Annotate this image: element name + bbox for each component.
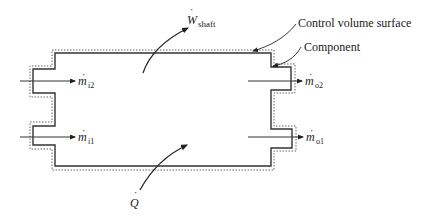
control-volume-leader: [253, 24, 296, 51]
mass-symbol: m: [78, 130, 87, 144]
mass-symbol: m: [306, 130, 315, 144]
outlet-2-label: · m o2: [305, 69, 323, 90]
outlet-1-label: · m o1: [306, 125, 324, 146]
component-leader: [273, 47, 301, 66]
inlet-2-label: · m i2: [78, 69, 94, 90]
mass-symbol: m: [78, 74, 87, 88]
work-subscript: shaft: [198, 19, 216, 29]
heat-label: · Q: [130, 187, 139, 210]
component-outline: [33, 53, 292, 166]
shaft-work-arrow: [143, 28, 188, 73]
inlet-1-label: · m i1: [78, 125, 94, 146]
work-symbol: W: [187, 13, 198, 27]
inlet-2-subscript: i2: [88, 81, 94, 90]
inlet-1-subscript: i1: [88, 137, 94, 146]
component-label: Component: [304, 40, 361, 54]
control-volume-surface-label: Control volume surface: [298, 16, 411, 30]
control-volume-diagram: Control volume surface Component · W sha…: [0, 0, 422, 217]
outlet-2-subscript: o2: [315, 81, 323, 90]
heat-arrow: [140, 145, 187, 190]
outlet-1-subscript: o1: [316, 137, 324, 146]
shaft-work-label: · W shaft: [187, 4, 216, 29]
control-volume-surface: [30, 50, 296, 170]
heat-symbol: Q: [130, 196, 139, 210]
mass-symbol: m: [305, 74, 314, 88]
